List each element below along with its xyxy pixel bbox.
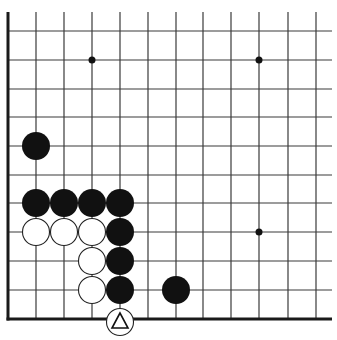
black-stone-body <box>106 189 134 217</box>
black-stone-body <box>106 276 134 304</box>
white-stone-body <box>79 277 106 304</box>
white-stone[interactable] <box>79 277 106 304</box>
white-stone[interactable] <box>79 219 106 246</box>
go-board[interactable] <box>0 0 337 340</box>
black-stone-body <box>106 218 134 246</box>
black-stone[interactable] <box>22 132 50 160</box>
star-point <box>256 57 263 64</box>
star-point <box>89 57 96 64</box>
white-stone[interactable] <box>51 219 78 246</box>
black-stone[interactable] <box>106 189 134 217</box>
black-stone-body <box>162 276 190 304</box>
black-stone[interactable] <box>78 189 106 217</box>
black-stone[interactable] <box>162 276 190 304</box>
black-stone[interactable] <box>22 189 50 217</box>
star-point <box>256 229 263 236</box>
black-stone[interactable] <box>106 218 134 246</box>
white-stone-body <box>79 219 106 246</box>
white-stone-body <box>79 248 106 275</box>
black-stone-body <box>50 189 78 217</box>
black-stone-body <box>22 132 50 160</box>
white-stone[interactable] <box>23 219 50 246</box>
go-board-canvas[interactable] <box>0 0 337 340</box>
black-stone[interactable] <box>106 276 134 304</box>
black-stone-body <box>78 189 106 217</box>
black-stone[interactable] <box>50 189 78 217</box>
white-stone[interactable] <box>79 248 106 275</box>
black-stone[interactable] <box>106 247 134 275</box>
white-stone[interactable] <box>107 309 134 336</box>
black-stone-body <box>22 189 50 217</box>
stones-layer <box>22 132 190 336</box>
white-stone-body <box>51 219 78 246</box>
white-stone-body <box>23 219 50 246</box>
board-grid <box>7 12 333 321</box>
black-stone-body <box>106 247 134 275</box>
